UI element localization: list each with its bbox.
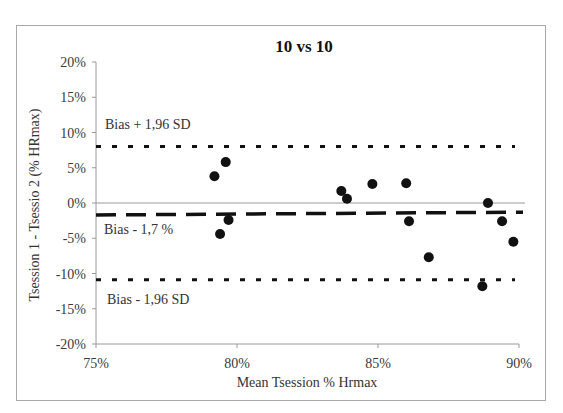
data-point [367,179,377,189]
x-tick-label: 80% [224,356,250,371]
data-point [497,216,507,226]
x-tick-label: 90% [506,356,532,371]
data-point [215,229,225,239]
bias-line [96,212,523,215]
x-tick-label: 75% [83,356,109,371]
data-point [221,157,231,167]
y-tick-label: 15% [60,90,86,105]
data-point [508,237,518,247]
x-tick-label: 85% [365,356,391,371]
lower-limit-label: Bias - 1,96 SD [107,292,189,307]
y-tick-label: -15% [56,302,87,317]
data-point [483,198,493,208]
bland-altman-chart: 10 vs 10 20%15%10%5%0%-5%-10%-15%-20%75%… [0,0,563,413]
data-points [209,157,518,291]
data-point [424,252,434,262]
data-point [209,171,219,181]
data-point [342,194,352,204]
y-tick-label: -20% [56,337,87,352]
y-tick-label: -10% [56,267,87,282]
y-tick-label: 20% [60,55,86,70]
data-point [224,215,234,225]
y-tick-label: 0% [67,196,86,211]
bias-label: Bias - 1,7 % [104,222,174,237]
reference-lines [96,147,525,280]
chart-title: 10 vs 10 [275,37,333,56]
data-point [404,216,414,226]
y-tick-label: 5% [67,161,86,176]
data-point [477,281,487,291]
y-tick-label: 10% [60,126,86,141]
data-point [401,178,411,188]
y-tick-label: -5% [63,231,87,246]
x-axis-title: Mean Tsession % Hrmax [237,375,378,390]
y-axis-title: Tsession 1 - Tsessio 2 (% HRmax) [27,108,43,301]
upper-limit-label: Bias + 1,96 SD [105,117,191,132]
